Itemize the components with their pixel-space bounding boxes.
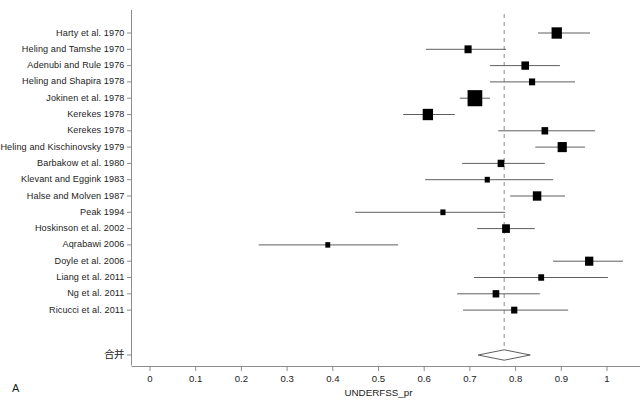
study-label: Halse and Molven 1987 — [27, 191, 125, 201]
x-axis-title: UNDERFSS_pr — [344, 387, 412, 398]
x-tick-label: 0.2 — [235, 373, 248, 384]
study-label: Heling and Kischinovsky 1979 — [0, 142, 124, 152]
x-tick-label: 1 — [604, 373, 609, 384]
study-label: Adenubi and Rule 1976 — [27, 60, 124, 70]
study-label: Aqrabawi 2006 — [63, 239, 125, 249]
x-tick-label: 0.4 — [326, 373, 339, 384]
x-tick-label: 0.3 — [280, 373, 293, 384]
study-label: Heling and Shapira 1978 — [22, 76, 124, 86]
study-label: Kerekes 1978 — [67, 109, 124, 119]
panel-letter: A — [12, 382, 19, 394]
forest-plot-figure: 00.10.20.30.40.50.60.70.80.91UNDERFSS_pr… — [0, 0, 643, 406]
x-tick-label: 0 — [147, 373, 152, 384]
x-tick-label: 0.9 — [555, 373, 568, 384]
summary-label: 合并 — [104, 349, 124, 359]
study-label: Ng et al. 2011 — [67, 288, 124, 298]
study-label: Kerekes 1978 — [67, 125, 124, 135]
study-label: Hoskinson et al. 2002 — [35, 223, 125, 233]
x-tick-label: 0.8 — [509, 373, 522, 384]
study-label: Heling and Tamshe 1970 — [22, 44, 125, 54]
study-label: Liang et al. 2011 — [56, 272, 124, 282]
study-label: Peak 1994 — [80, 207, 124, 217]
study-label: Barbakow et al. 1980 — [37, 158, 124, 168]
study-label: Harty et al. 1970 — [56, 28, 124, 38]
plot-text-overlay: 00.10.20.30.40.50.60.70.80.91UNDERFSS_pr… — [0, 0, 643, 406]
x-tick-label: 0.1 — [189, 373, 202, 384]
study-label: Doyle et al. 2006 — [55, 256, 125, 266]
study-label: Klevant and Eggink 1983 — [21, 174, 124, 184]
x-tick-label: 0.5 — [372, 373, 385, 384]
study-label: Ricucci et al. 2011 — [49, 305, 125, 315]
x-tick-label: 0.7 — [463, 373, 476, 384]
x-tick-label: 0.6 — [418, 373, 431, 384]
study-label: Jokinen et al. 1978 — [46, 93, 124, 103]
